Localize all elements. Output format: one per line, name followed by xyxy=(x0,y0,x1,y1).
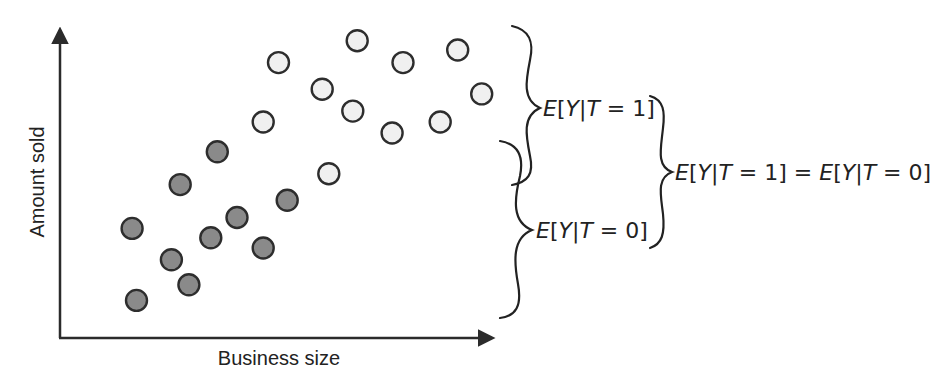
treated-point xyxy=(347,30,368,51)
treated-point xyxy=(268,52,289,73)
untreated-point xyxy=(253,238,274,259)
brace-upper xyxy=(512,26,540,185)
treated-point xyxy=(253,112,274,133)
label-e-y-t0: E[Y|T = 0] xyxy=(536,218,648,244)
scatter-points xyxy=(122,30,493,311)
untreated-point xyxy=(170,174,191,195)
untreated-point xyxy=(122,218,143,239)
label-e-y-t1: E[Y|T = 1] xyxy=(543,96,655,122)
y-axis-label: Amount sold xyxy=(26,126,48,237)
axes xyxy=(59,30,492,338)
label-equality: E[Y|T = 1] = E[Y|T = 0] xyxy=(675,160,931,186)
brace-lower xyxy=(500,141,532,318)
untreated-point xyxy=(200,227,221,248)
untreated-point xyxy=(161,249,182,270)
untreated-point xyxy=(277,190,298,211)
untreated-point xyxy=(227,207,248,228)
treated-point xyxy=(318,163,339,184)
diagram-canvas: Business size Amount sold E[Y|T = 1] E[Y… xyxy=(0,0,933,385)
untreated-point xyxy=(178,274,199,295)
untreated-point xyxy=(207,141,228,162)
x-axis-label: Business size xyxy=(218,347,340,369)
treated-point xyxy=(342,101,363,122)
treated-point xyxy=(471,83,492,104)
treated-point xyxy=(312,79,333,100)
treated-point xyxy=(430,112,451,133)
treated-point xyxy=(447,40,468,61)
treated-point xyxy=(382,123,403,144)
untreated-point xyxy=(126,290,147,311)
treated-point xyxy=(393,52,414,73)
